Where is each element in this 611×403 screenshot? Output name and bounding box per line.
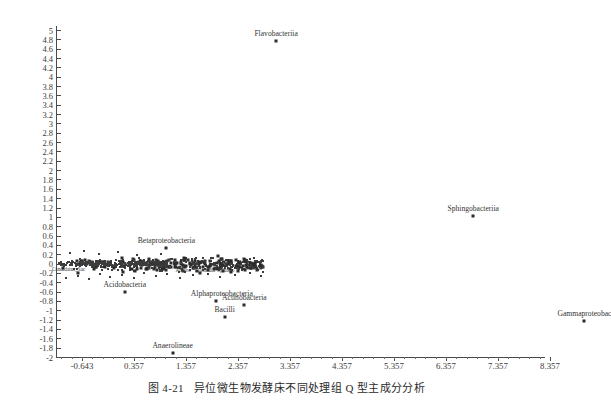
cluster-point [225,263,227,265]
y-tick-mark [56,282,61,283]
cluster-point [159,270,161,272]
cluster-point [262,260,264,262]
y-tick-label: 2 [49,166,56,175]
x-tick-minor [155,357,156,359]
x-tick-minor [425,357,426,359]
x-tick-minor [61,357,62,359]
data-point-label: Flavobacteriia [254,30,297,38]
labeled-data-point [123,290,126,293]
y-tick: 2.2 [56,161,61,162]
cluster-point [173,261,175,263]
cluster-point [80,261,82,263]
y-tick: -0.4 [56,282,61,283]
y-tick-mark [56,273,61,274]
cluster-point [138,257,140,259]
cluster-point-label: Candidatus_Sac [52,267,85,272]
x-tick-minor [415,357,416,359]
y-tick: -1.4 [56,329,61,330]
x-tick-minor [134,357,135,359]
x-tick-minor [373,357,374,359]
data-point-label: Sphingobacteriia [447,205,498,213]
x-tick-minor [363,357,364,359]
cluster-point [119,262,121,264]
y-tick: 0.4 [56,245,61,246]
y-tick-mark [56,179,61,180]
x-tick-minor [113,357,114,359]
y-tick-mark [56,329,61,330]
figure-caption: 图 4-21异位微生物发酵床不同处理组 Q 型主成分分析 [0,379,573,395]
y-tick-mark [56,226,61,227]
labeled-data-point [472,214,475,217]
y-tick: 2.4 [56,151,61,152]
cluster-point [133,269,136,272]
cluster-point [166,262,168,264]
caption-text: 异位微生物发酵床不同处理组 Q 型主成分分析 [194,382,425,394]
x-tick-label: -0.643 [71,362,94,371]
cluster-point [161,270,163,272]
y-tick-mark [56,67,61,68]
y-tick-mark [56,310,61,311]
y-tick-mark [56,198,61,199]
y-tick-label: 3 [49,120,56,129]
cluster-point [67,261,69,263]
x-tick-label: 1.357 [176,362,196,371]
x-tick-minor [290,357,291,359]
cluster-point [144,264,146,266]
cluster-point [192,274,194,276]
x-tick-minor [477,357,478,359]
x-tick-label: 2.357 [228,362,248,371]
y-tick-mark [56,86,61,87]
y-tick-label: -1.8 [40,344,56,353]
y-tick-mark [56,301,61,302]
y-tick-label: 0.2 [42,250,56,259]
y-tick-mark [56,338,61,339]
cluster-point [92,268,95,271]
y-tick: 4.6 [56,49,61,50]
x-tick-minor [456,357,457,359]
x-tick-minor [352,357,353,359]
cluster-point [111,269,113,271]
cluster-point [85,264,87,266]
y-tick: 3 [56,123,61,124]
cluster-point-label: Clostridia [241,266,261,271]
cluster-point [109,262,111,264]
y-tick: 1 [56,217,61,218]
cluster-point [169,266,171,268]
x-tick-minor [196,357,197,359]
y-tick-label: 1.6 [42,185,56,194]
x-tick-minor [82,357,83,359]
cluster-point [239,261,242,264]
cluster-point [99,273,101,275]
cluster-point [199,261,202,264]
x-tick-minor [508,357,509,359]
y-tick-mark [56,49,61,50]
cluster-point [160,253,162,255]
cluster-point [69,252,71,254]
cluster-point [83,250,85,252]
cluster-point [238,268,240,270]
x-tick-label: 8.357 [540,362,560,371]
y-tick-label: -1.2 [40,316,56,325]
cluster-point [135,261,137,263]
cluster-point [254,260,256,262]
cluster-point [124,263,126,265]
x-tick-minor [207,357,208,359]
y-tick-mark [56,208,61,209]
data-point-label: Bacilli [215,306,235,314]
y-tick: -1.6 [56,338,61,339]
y-tick-label: -0.8 [40,297,56,306]
cluster-point [121,274,123,276]
cluster-point [220,262,223,265]
cluster-point [97,262,99,264]
cluster-point [148,267,150,269]
x-tick-minor [436,357,437,359]
y-tick-label: 2.8 [42,129,56,138]
cluster-point [180,262,182,264]
data-point-label: Betaproteobacteria [138,237,195,245]
x-tick-minor [124,357,125,359]
y-tick: -1.8 [56,348,61,349]
y-tick-label: 1.8 [42,176,56,185]
y-tick-mark [56,320,61,321]
y-tick-label: -1.6 [40,335,56,344]
cluster-point [238,264,240,266]
